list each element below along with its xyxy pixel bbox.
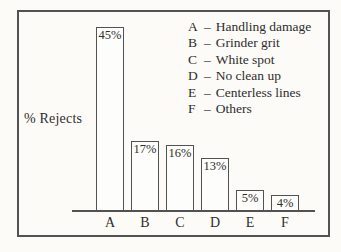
- plot-area: 45%A17%B16%C13%D5%E4%F: [0, 0, 341, 252]
- bar-value-label-A: 45%: [97, 28, 123, 42]
- category-label-E: E: [235, 215, 265, 231]
- bar-C: 16%: [166, 145, 194, 211]
- category-label-D: D: [200, 215, 230, 231]
- scanned-chart-page: % Rejects A–Handling damageB–Grinder gri…: [0, 0, 341, 252]
- bar-value-label-C: 16%: [167, 146, 193, 160]
- bar-F: 4%: [271, 195, 299, 211]
- category-label-B: B: [130, 215, 160, 231]
- bar-value-label-D: 13%: [202, 159, 228, 173]
- bar-E: 5%: [236, 190, 264, 211]
- bar-value-label-B: 17%: [132, 142, 158, 156]
- bar-A: 45%: [96, 27, 124, 211]
- category-label-F: F: [270, 215, 300, 231]
- bar-value-label-E: 5%: [237, 191, 263, 205]
- category-label-A: A: [95, 215, 125, 231]
- bar-D: 13%: [201, 158, 229, 211]
- bar-value-label-F: 4%: [272, 196, 298, 210]
- bar-B: 17%: [131, 141, 159, 211]
- category-label-C: C: [165, 215, 195, 231]
